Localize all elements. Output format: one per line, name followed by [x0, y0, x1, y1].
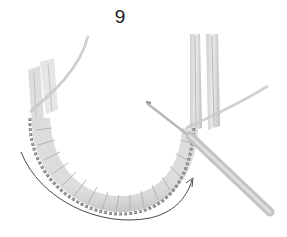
rope-right-ends	[190, 34, 220, 132]
crochet-step-illustration	[0, 0, 287, 237]
yarn-strand	[30, 36, 268, 128]
rope-ring	[32, 118, 198, 212]
